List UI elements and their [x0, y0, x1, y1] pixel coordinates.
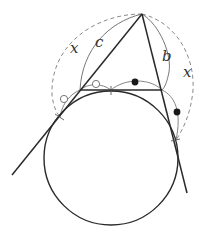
filled-dot-marker-top — [132, 79, 139, 86]
label-x-right: x — [183, 63, 192, 81]
diagram-svg: x c b x — [0, 0, 205, 235]
right-tangent-line — [142, 14, 187, 193]
open-circle-marker-top — [92, 80, 99, 87]
label-b: b — [162, 47, 172, 65]
label-x-left: x — [70, 39, 79, 57]
open-circle-marker-left — [60, 95, 67, 102]
geometry-diagram: x c b x — [0, 0, 205, 235]
filled-dot-marker-right — [174, 109, 181, 116]
label-c: c — [95, 33, 104, 51]
